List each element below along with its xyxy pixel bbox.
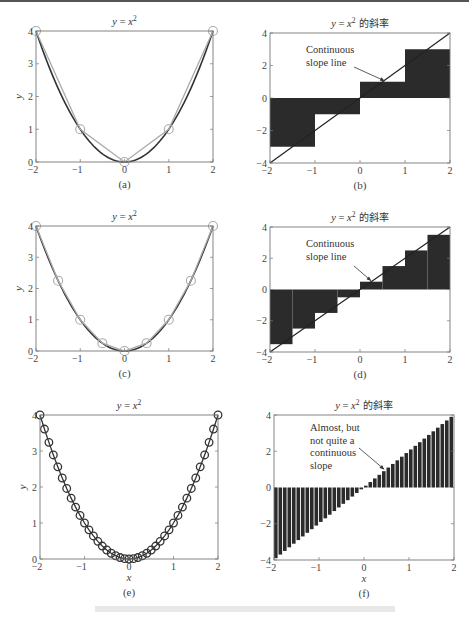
slope-bar (274, 488, 278, 559)
slope-bar (288, 488, 292, 548)
subfigure-label: (d) (354, 368, 367, 381)
annotation: Almost, butnot quite acontinuousslope (310, 422, 384, 471)
y-tick-label: 2 (266, 446, 271, 457)
y-tick-label: 2 (262, 60, 267, 71)
chart-panel-d: −2−1012−4−2024y = x2 的斜率(d)Continuousslo… (256, 210, 452, 381)
slope-bar (387, 468, 391, 488)
slope-bar (391, 464, 395, 488)
x-tick-label: 1 (166, 164, 171, 175)
svg-text:Continuous: Continuous (306, 238, 354, 249)
slope-bar (324, 488, 328, 519)
y-tick-label: 0 (32, 554, 37, 565)
slope-bar (270, 98, 315, 147)
slope-bar (315, 98, 360, 114)
slope-bar (396, 460, 400, 487)
x-tick-label: 2 (452, 562, 457, 573)
svg-text:slope: slope (310, 460, 333, 471)
x-tick-label: 2 (211, 164, 216, 175)
x-tick-label: −1 (307, 165, 318, 176)
chart-title: y = x2 的斜率 (334, 398, 392, 411)
x-tick-label: 0 (122, 164, 127, 175)
slope-bar (319, 488, 323, 522)
y-tick-label: 0 (28, 346, 33, 357)
chart-title: y = x2 (116, 398, 142, 411)
x-tick-label: 0 (358, 165, 363, 176)
y-tick-label: −4 (256, 158, 267, 169)
x-tick-label: 2 (211, 353, 216, 364)
subfigure-label: (f) (359, 587, 370, 600)
slope-bar (441, 424, 445, 487)
x-tick-label: −1 (76, 561, 87, 572)
slope-bar (283, 488, 287, 551)
y-tick-label: 3 (32, 446, 37, 457)
y-tick-label: 4 (32, 410, 37, 421)
slope-bar (428, 235, 451, 290)
figure-caption-faint (95, 606, 395, 612)
slope-bar (360, 488, 364, 490)
y-tick-label: 3 (28, 58, 33, 69)
slope-bar (450, 417, 454, 488)
svg-text:slope line: slope line (306, 57, 347, 68)
y-tick-label: 2 (32, 482, 37, 493)
y-axis-label: y (12, 94, 24, 100)
slope-bar (279, 488, 283, 555)
slope-bar (400, 457, 404, 488)
y-tick-label: −2 (256, 315, 267, 326)
slope-bar (315, 290, 338, 313)
svg-text:Almost, but: Almost, but (310, 422, 360, 433)
slope-bar (373, 478, 377, 487)
y-tick-label: 0 (28, 157, 33, 168)
y-tick-label: 4 (28, 26, 33, 37)
y-tick-label: 0 (266, 482, 271, 493)
svg-text:Continuous: Continuous (306, 44, 354, 55)
slope-bar (328, 488, 332, 515)
y-tick-label: 4 (266, 410, 271, 421)
figure-canvas: −2−101201234y = x2y(a)−2−1012−4−2024y = … (0, 0, 469, 618)
y-tick-label: 4 (28, 221, 33, 232)
chart-title: y = x2 (111, 209, 137, 222)
slope-bar (306, 488, 310, 533)
slope-bar (351, 488, 355, 497)
y-axis-label: y (12, 286, 24, 292)
subfigure-label: (b) (354, 179, 367, 192)
slope-bar (436, 428, 440, 488)
slope-bar (333, 488, 337, 512)
x-tick-label: −1 (307, 354, 318, 365)
x-tick-label: 2 (448, 165, 453, 176)
continuous-curve (36, 31, 213, 162)
y-tick-label: 1 (28, 124, 33, 135)
x-tick-label: −1 (72, 164, 83, 175)
x-tick-label: 1 (171, 561, 176, 572)
slope-bars (274, 417, 453, 558)
slope-bar (364, 486, 368, 488)
annotation: Continuousslope line (306, 44, 385, 81)
subfigure-label: (e) (123, 586, 136, 599)
x-tick-label: −1 (311, 562, 322, 573)
x-tick-label: 1 (403, 354, 408, 365)
slope-bar (432, 431, 436, 487)
slope-bar (360, 282, 383, 290)
x-tick-label: 1 (407, 562, 412, 573)
y-tick-label: 0 (262, 93, 267, 104)
chart-title: y = x2 的斜率 (330, 210, 388, 223)
slope-bar (270, 290, 293, 345)
svg-text:slope line: slope line (306, 251, 347, 262)
chart-title: y = x2 的斜率 (330, 16, 388, 29)
x-axis-label: x (361, 572, 367, 584)
slope-bar (360, 82, 405, 98)
chart-panel-b: −2−1012−4−2024y = x2 的斜率(b)Continuousslo… (256, 16, 452, 192)
slope-bar (346, 488, 350, 501)
x-tick-label: 2 (216, 561, 221, 572)
y-tick-label: 2 (28, 283, 33, 294)
x-tick-label: 1 (166, 353, 171, 364)
annotation: Continuousslope line (306, 238, 371, 281)
x-tick-label: 0 (122, 353, 127, 364)
slope-bar (409, 449, 413, 487)
subfigure-label: (c) (118, 367, 131, 380)
slope-bar (427, 435, 431, 488)
slope-bar (378, 475, 382, 488)
x-tick-label: 2 (448, 354, 453, 365)
chart-panel-e: −2−101201234y = x2yx(e) (16, 398, 222, 599)
y-tick-label: 2 (262, 253, 267, 264)
svg-text:not quite a: not quite a (310, 435, 355, 446)
